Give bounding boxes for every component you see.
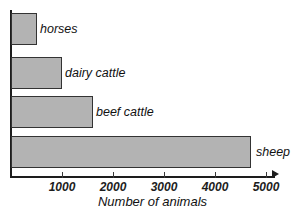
bar-sheep (11, 136, 251, 168)
bar-horses (11, 13, 37, 45)
bar-dairy-cattle (11, 57, 62, 89)
bar-chart: 1000 2000 3000 4000 5000 horses dairy ca… (0, 0, 305, 213)
x-axis-arrow-icon (272, 170, 279, 178)
x-tick-2000 (113, 172, 114, 178)
x-tick-5000 (266, 172, 267, 178)
bar-label-sheep: sheep (256, 145, 290, 159)
x-axis-line (10, 176, 275, 178)
bar-beef-cattle (11, 96, 93, 128)
bar-label-dairy-cattle: dairy cattle (65, 66, 125, 80)
bar-label-horses: horses (40, 22, 78, 36)
x-tick-label-1000: 1000 (49, 180, 76, 194)
x-tick-4000 (215, 172, 216, 178)
x-axis-title: Number of animals (0, 194, 305, 209)
x-tick-label-5000: 5000 (253, 180, 280, 194)
bar-label-beef-cattle: beef cattle (96, 105, 154, 119)
x-tick-label-4000: 4000 (202, 180, 229, 194)
x-tick-1000 (62, 172, 63, 178)
x-tick-label-3000: 3000 (151, 180, 178, 194)
x-tick-3000 (164, 172, 165, 178)
x-tick-label-2000: 2000 (100, 180, 127, 194)
